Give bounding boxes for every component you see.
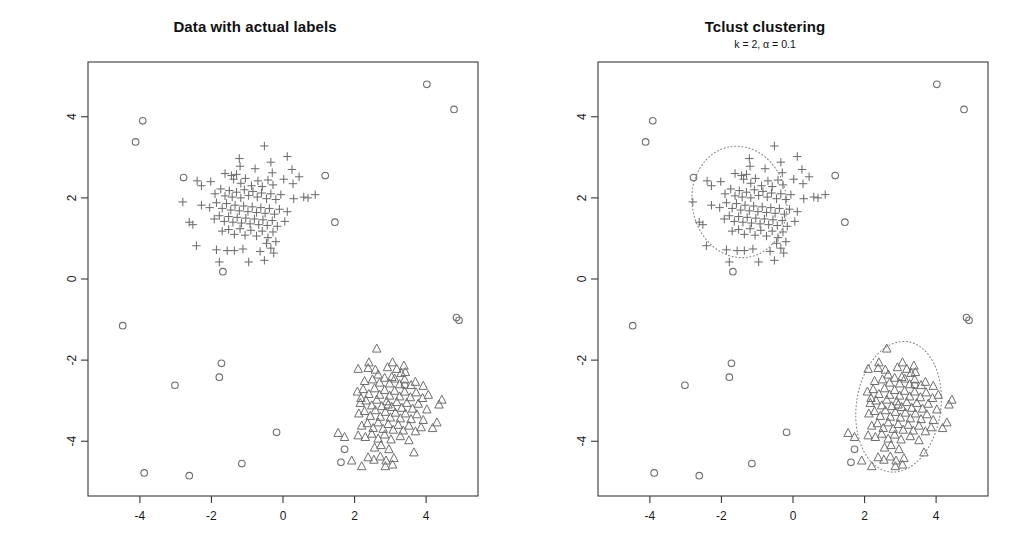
data-point-triangle xyxy=(347,456,355,464)
data-point-plus xyxy=(235,154,243,162)
data-point-triangle xyxy=(419,381,427,389)
data-point-plus xyxy=(739,218,747,226)
data-point-plus xyxy=(233,213,241,221)
data-point-plus xyxy=(260,256,268,264)
x-axis-tick-label: 0 xyxy=(790,509,797,523)
x-axis-tick-label: 4 xyxy=(423,509,430,523)
data-point-plus xyxy=(764,220,772,228)
data-point-plus xyxy=(751,174,759,182)
data-point-triangle xyxy=(357,462,365,470)
data-point-plus xyxy=(231,201,239,209)
data-point-plus xyxy=(239,202,247,210)
data-point-plus xyxy=(793,207,801,215)
y-axis-tick-label: -2 xyxy=(65,354,79,365)
data-point-plus xyxy=(745,207,753,215)
data-point-plus xyxy=(217,185,225,193)
data-point-plus xyxy=(268,216,276,224)
y-axis-tick-label: 2 xyxy=(575,194,589,201)
data-point-outlier xyxy=(216,374,223,381)
y-axis-tick-label: -4 xyxy=(575,436,589,447)
data-point-plus xyxy=(762,208,770,216)
data-point-triangle xyxy=(374,418,382,426)
data-point-plus xyxy=(259,216,267,224)
data-point-plus xyxy=(702,242,710,250)
data-point-plus xyxy=(197,182,205,190)
data-point-plus xyxy=(262,239,270,247)
data-point-triangle xyxy=(428,424,436,432)
data-point-plus xyxy=(283,152,291,160)
data-point-triangle xyxy=(413,410,421,418)
data-point-outlier xyxy=(322,172,329,179)
data-point-plus xyxy=(244,191,252,199)
data-point-triangle xyxy=(906,414,914,422)
data-point-plus xyxy=(269,181,277,189)
data-point-outlier xyxy=(273,429,280,436)
data-point-plus xyxy=(746,162,754,170)
data-point-triangle xyxy=(923,410,931,418)
data-point-triangle xyxy=(388,358,396,366)
data-point-plus xyxy=(221,192,229,200)
data-point-triangle xyxy=(899,425,907,433)
data-point-plus xyxy=(254,177,262,185)
data-point-plus xyxy=(762,232,770,240)
data-point-plus xyxy=(295,173,303,181)
data-point-outlier xyxy=(239,460,246,467)
data-point-plus xyxy=(268,169,276,177)
data-point-plus xyxy=(763,193,771,201)
data-point-triangle xyxy=(938,424,946,432)
y-axis-tick-label: -2 xyxy=(575,354,589,365)
data-point-plus xyxy=(742,188,750,196)
data-point-plus xyxy=(230,246,238,254)
data-point-triangle xyxy=(386,413,394,421)
data-point-outlier xyxy=(651,470,658,477)
data-point-plus xyxy=(775,204,783,212)
data-point-plus xyxy=(799,179,807,187)
data-point-plus xyxy=(703,177,711,185)
x-axis-tick-label: 2 xyxy=(861,509,868,523)
data-point-plus xyxy=(779,228,787,236)
data-point-plus xyxy=(777,158,785,166)
x-axis-tick-label: -2 xyxy=(716,509,727,523)
data-point-plus xyxy=(241,231,249,239)
data-point-outlier xyxy=(172,382,179,389)
data-point-plus xyxy=(745,154,753,162)
data-point-plus xyxy=(244,207,252,215)
data-point-outlier xyxy=(682,382,689,389)
data-point-triangle xyxy=(380,430,388,438)
data-point-plus xyxy=(224,225,232,233)
cluster-ellipse xyxy=(683,139,795,266)
data-point-plus xyxy=(751,231,759,239)
data-point-plus xyxy=(197,201,205,209)
data-point-triangle xyxy=(884,418,892,426)
data-point-triangle xyxy=(857,456,865,464)
data-point-outlier xyxy=(642,139,649,146)
data-point-plus xyxy=(264,176,272,184)
data-point-plus xyxy=(746,225,754,233)
data-point-plus xyxy=(193,177,201,185)
data-point-outlier xyxy=(851,446,858,453)
data-point-plus xyxy=(787,190,795,198)
data-point-plus xyxy=(252,232,260,240)
y-axis-tick-label: 4 xyxy=(65,113,79,120)
data-point-triangle xyxy=(389,425,397,433)
data-point-triangle xyxy=(933,405,941,413)
x-axis-tick-label: -4 xyxy=(645,509,656,523)
data-point-plus xyxy=(211,190,219,198)
data-point-plus xyxy=(242,214,250,222)
data-point-plus xyxy=(212,199,220,207)
data-point-triangle xyxy=(385,445,393,453)
data-point-plus xyxy=(777,190,785,198)
data-point-plus xyxy=(768,227,776,235)
data-point-plus xyxy=(770,256,778,264)
data-point-outlier xyxy=(341,446,348,453)
data-point-plus xyxy=(258,227,266,235)
data-point-plus xyxy=(782,195,790,203)
data-point-plus xyxy=(300,193,308,201)
data-point-plus xyxy=(740,246,748,254)
data-point-plus xyxy=(244,258,252,266)
data-point-triangle xyxy=(383,363,391,371)
data-point-plus xyxy=(221,169,229,177)
data-point-plus xyxy=(273,222,281,230)
data-point-plus xyxy=(248,203,256,211)
data-point-plus xyxy=(240,186,248,194)
